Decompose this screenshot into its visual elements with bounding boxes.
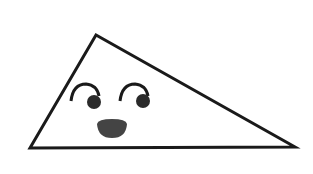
right-pupil: [136, 94, 150, 108]
triangle-face-drawing: [0, 0, 313, 174]
left-pupil: [87, 95, 101, 109]
illustration-canvas: Cartoon triangle with a face: [0, 0, 313, 174]
